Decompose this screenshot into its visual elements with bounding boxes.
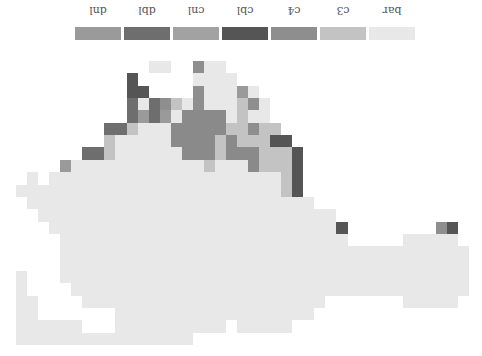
map-cell-bar bbox=[104, 197, 115, 209]
map-cell-bar bbox=[392, 246, 403, 259]
map-cell-cnl bbox=[171, 135, 182, 147]
map-cell-bar bbox=[193, 209, 204, 222]
map-cell-bar bbox=[414, 296, 425, 308]
map-cell-bar bbox=[71, 320, 82, 333]
map-cell-bar bbox=[104, 259, 115, 271]
map-cell-bar bbox=[215, 172, 226, 185]
map-cell-bar bbox=[104, 333, 115, 345]
map-cell-bar bbox=[259, 246, 270, 259]
map-cell-bar bbox=[93, 246, 104, 259]
map-cell-bar bbox=[403, 271, 414, 283]
map-cell-bar bbox=[138, 197, 149, 209]
map-cell-bar bbox=[149, 123, 160, 135]
map-cell-c3 bbox=[237, 135, 248, 147]
map-cell-bar bbox=[204, 185, 215, 197]
map-cell-bar bbox=[149, 222, 160, 234]
map-cell-bar bbox=[204, 61, 215, 73]
map-cell-bar bbox=[149, 197, 160, 209]
map-cell-bar bbox=[93, 172, 104, 185]
map-cell-bar bbox=[204, 222, 215, 234]
map-cell-bar bbox=[182, 259, 193, 271]
map-cell-bar bbox=[226, 185, 237, 197]
map-cell-bar bbox=[115, 185, 127, 197]
climate-grid-map bbox=[0, 0, 482, 356]
map-cell-bar bbox=[138, 234, 149, 246]
map-cell-bar bbox=[93, 296, 104, 308]
map-cell-bar bbox=[248, 209, 259, 222]
map-cell-bar bbox=[127, 185, 138, 197]
map-cell-bar bbox=[270, 222, 281, 234]
map-cell-cnl bbox=[193, 110, 204, 123]
map-cell-bar bbox=[160, 320, 171, 333]
map-cell-bar bbox=[281, 283, 292, 296]
map-cell-bar bbox=[160, 308, 171, 320]
map-cell-bar bbox=[237, 185, 248, 197]
map-cell-bar bbox=[348, 271, 359, 283]
map-cell-bar bbox=[82, 209, 93, 222]
map-cell-c3 bbox=[237, 98, 248, 110]
map-cell-bar bbox=[281, 259, 292, 271]
map-cell-bar bbox=[82, 222, 93, 234]
map-cell-bar bbox=[237, 160, 248, 172]
map-cell-c4 bbox=[248, 123, 259, 135]
map-cell-bar bbox=[226, 296, 237, 308]
map-cell-bar bbox=[325, 283, 336, 296]
map-cell-bar bbox=[149, 308, 160, 320]
map-cell-bar bbox=[270, 308, 281, 320]
map-cell-bar bbox=[138, 308, 149, 320]
map-cell-bar bbox=[226, 73, 237, 86]
map-cell-bar bbox=[60, 172, 71, 185]
map-cell-bar bbox=[60, 222, 71, 234]
map-cell-bar bbox=[104, 271, 115, 283]
map-cell-c4 bbox=[436, 222, 447, 234]
map-cell-bar bbox=[447, 296, 458, 308]
map-cell-bar bbox=[259, 308, 270, 320]
map-cell-bar bbox=[82, 259, 93, 271]
map-cell-bar bbox=[336, 246, 348, 259]
map-cell-bar bbox=[259, 185, 270, 197]
map-cell-bar bbox=[104, 185, 115, 197]
map-cell-bar bbox=[237, 308, 248, 320]
map-cell-bar bbox=[171, 185, 182, 197]
map-cell-bar bbox=[127, 308, 138, 320]
map-cell-bar bbox=[270, 197, 281, 209]
map-cell-bar bbox=[281, 296, 292, 308]
map-cell-bar bbox=[270, 209, 281, 222]
map-cell-bar bbox=[348, 283, 359, 296]
map-cell-bar bbox=[336, 259, 348, 271]
map-cell-bar bbox=[149, 333, 160, 345]
map-cell-bar bbox=[281, 209, 292, 222]
map-cell-cnl bbox=[182, 147, 193, 160]
map-cell-bar bbox=[281, 246, 292, 259]
map-cell-bar bbox=[226, 98, 237, 110]
map-cell-bar bbox=[127, 209, 138, 222]
map-cell-bar bbox=[436, 296, 447, 308]
map-cell-c4 bbox=[160, 98, 171, 110]
map-cell-bar bbox=[226, 110, 237, 123]
map-cell-bar bbox=[16, 333, 27, 345]
map-cell-bar bbox=[226, 271, 237, 283]
map-cell-c3 bbox=[281, 172, 292, 185]
map-cell-bar bbox=[138, 320, 149, 333]
map-cell-bar bbox=[226, 283, 237, 296]
map-cell-bar bbox=[325, 222, 336, 234]
map-cell-cnl bbox=[248, 160, 259, 172]
map-cell-bar bbox=[82, 197, 93, 209]
map-cell-bar bbox=[193, 222, 204, 234]
map-cell-bar bbox=[281, 320, 292, 333]
map-cell-bar bbox=[104, 296, 115, 308]
map-cell-bar bbox=[226, 234, 237, 246]
map-cell-bar bbox=[314, 271, 325, 283]
map-cell-bar bbox=[171, 246, 182, 259]
map-cell-bar bbox=[226, 246, 237, 259]
map-cell-bar bbox=[303, 234, 314, 246]
map-cell-bar bbox=[281, 234, 292, 246]
map-cell-c3 bbox=[259, 123, 270, 135]
map-cell-bar bbox=[226, 308, 237, 320]
map-cell-bar bbox=[303, 222, 314, 234]
map-cell-bar bbox=[115, 147, 127, 160]
map-cell-bar bbox=[237, 271, 248, 283]
map-cell-bar bbox=[303, 197, 314, 209]
map-cell-bar bbox=[160, 185, 171, 197]
map-cell-bar bbox=[381, 259, 392, 271]
